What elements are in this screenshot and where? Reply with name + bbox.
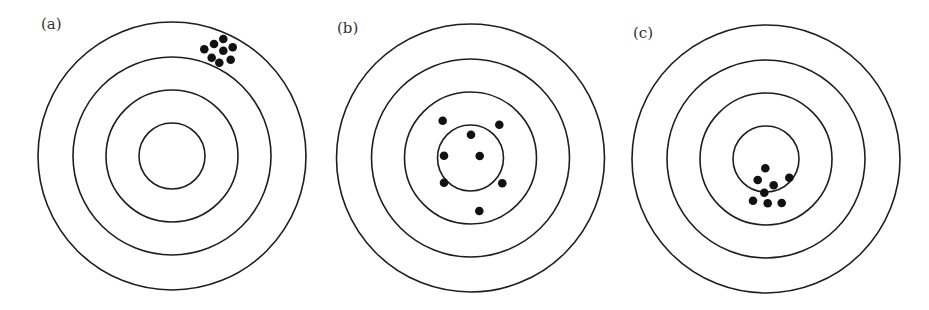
- panel-label-c: (c): [633, 26, 653, 41]
- shot-dot: [760, 188, 769, 197]
- shot-dot: [749, 196, 758, 205]
- target-b: [337, 24, 605, 292]
- shot-dot: [785, 173, 794, 182]
- target-ring-1: [337, 24, 605, 292]
- shot-dot: [467, 130, 476, 139]
- shot-dot: [226, 55, 235, 64]
- target-ring-2: [372, 59, 570, 257]
- panel-label-a: (a): [41, 17, 62, 32]
- shot-dot: [769, 181, 778, 190]
- shot-dot: [777, 199, 786, 208]
- target-c: [632, 25, 900, 293]
- shot-dot: [207, 53, 216, 62]
- shot-dot: [498, 179, 507, 188]
- shot-dot: [475, 152, 484, 161]
- target-ring-2: [73, 57, 271, 255]
- shot-dot: [219, 46, 228, 55]
- shot-dot: [440, 178, 449, 187]
- shot-dot: [200, 45, 209, 54]
- shot-dot: [210, 40, 219, 49]
- targets-canvas: [0, 0, 929, 310]
- shot-dot: [763, 199, 772, 208]
- target-a: [38, 22, 306, 290]
- target-ring-1: [632, 25, 900, 293]
- target-ring-3: [106, 90, 238, 222]
- target-ring-4: [733, 126, 799, 192]
- shot-dot: [761, 164, 770, 173]
- panel-label-b: (b): [337, 21, 358, 36]
- shot-dot: [438, 116, 447, 125]
- target-ring-3: [405, 92, 537, 224]
- target-ring-4: [139, 123, 205, 189]
- shot-dot: [753, 176, 762, 185]
- shot-dot: [440, 151, 449, 160]
- shot-dot: [219, 35, 228, 44]
- target-ring-2: [667, 60, 865, 258]
- shot-dot: [228, 43, 237, 52]
- target-diagram-figure: (a) (b) (c): [0, 0, 929, 310]
- shot-dot: [475, 207, 484, 216]
- shot-dot: [215, 58, 224, 67]
- target-ring-1: [38, 22, 306, 290]
- shot-dot: [495, 120, 504, 129]
